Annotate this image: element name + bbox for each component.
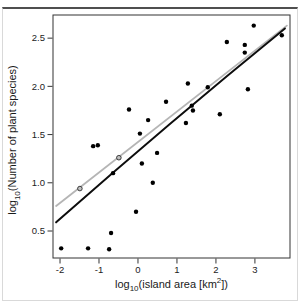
data-point (127, 107, 131, 111)
x-axis-label-text3: ]) (221, 278, 228, 290)
data-point (164, 100, 168, 104)
curved-fit-line (56, 29, 285, 223)
data-point (134, 210, 138, 214)
data-point (107, 247, 111, 251)
data-point (252, 23, 256, 27)
data-point (59, 246, 63, 250)
data-point (140, 161, 144, 165)
data-point (218, 112, 222, 116)
data-point (206, 85, 210, 89)
x-axis-label-text2: (island area [km (139, 278, 217, 290)
x-tick-label: -1 (95, 264, 103, 275)
data-point (146, 118, 150, 122)
data-point (190, 103, 194, 107)
scatter-plot-canvas: -2-101230.51.01.52.02.5 (0, 0, 304, 304)
y-tick-label: 2.0 (32, 81, 45, 92)
data-point (151, 181, 155, 185)
data-point (243, 43, 247, 47)
y-tick-label: 2.5 (32, 32, 45, 43)
y-axis-label-text: log (6, 200, 18, 215)
y-tick-label: 1.0 (32, 177, 45, 188)
x-axis-label-text: log (115, 278, 130, 290)
y-tick-label: 1.5 (32, 129, 45, 140)
y-tick-label: 0.5 (32, 225, 45, 236)
data-point (246, 87, 250, 91)
data-point (86, 246, 90, 250)
y-axis-label-subscript: 10 (13, 191, 22, 200)
x-axis-label-subscript: 10 (130, 284, 139, 293)
data-point (186, 81, 190, 85)
data-point (91, 144, 95, 148)
data-point (243, 50, 247, 54)
x-tick-label: 2 (213, 264, 218, 275)
gray-data-point (78, 186, 83, 191)
data-point (109, 231, 113, 235)
y-axis-label-text2: (Number of plant species) (6, 65, 18, 191)
data-point (191, 108, 195, 112)
data-point (111, 171, 115, 175)
data-point (184, 121, 188, 125)
figure: -2-101230.51.01.52.02.5 log10(Number of … (0, 0, 304, 304)
x-tick-label: 1 (174, 264, 179, 275)
data-point (155, 151, 159, 155)
x-tick-label: 3 (252, 264, 257, 275)
data-point (96, 143, 100, 147)
x-tick-label: 0 (135, 264, 140, 275)
y-axis-label: log10(Number of plant species) (6, 65, 21, 215)
x-axis-label: log10(island area [km2]) (53, 276, 290, 293)
gray-data-point (117, 155, 122, 160)
linear-fit-line (56, 26, 287, 206)
data-point (225, 40, 229, 44)
data-point (280, 33, 284, 37)
data-point (138, 131, 142, 135)
x-tick-label: -2 (56, 264, 64, 275)
